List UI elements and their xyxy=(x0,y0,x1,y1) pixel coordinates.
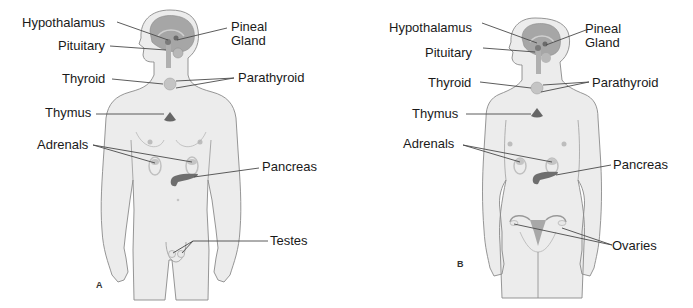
label-pancreas-b: Pancreas xyxy=(613,158,668,172)
label-parathyroid-b: Parathyroid xyxy=(592,76,658,90)
label-hypothalamus-b: Hypothalamus xyxy=(389,21,472,35)
label-adrenals-b: Adrenals xyxy=(403,137,454,151)
panel-letter-a: A xyxy=(96,280,103,290)
label-pancreas-a: Pancreas xyxy=(262,160,317,174)
thyroid-organ xyxy=(164,78,176,90)
testis-left xyxy=(169,251,176,258)
label-pineal-a-line2: Gland xyxy=(231,34,266,48)
label-thymus-a: Thymus xyxy=(45,106,91,120)
label-pineal-b-line1: Pineal xyxy=(585,22,621,36)
label-thymus-b: Thymus xyxy=(412,107,458,121)
label-hypothalamus-a: Hypothalamus xyxy=(22,16,105,30)
label-parathyroid-a: Parathyroid xyxy=(238,71,304,85)
male-figure xyxy=(93,10,268,300)
label-testes-a: Testes xyxy=(270,234,308,248)
female-figure xyxy=(463,18,612,298)
label-thyroid-a: Thyroid xyxy=(62,72,105,86)
label-thyroid-b: Thyroid xyxy=(428,76,471,90)
label-adrenals-a: Adrenals xyxy=(37,138,88,152)
label-pituitary-a: Pituitary xyxy=(58,39,105,53)
label-pineal-b-line2: Gland xyxy=(585,36,620,50)
label-pineal-a-line1: Pineal xyxy=(231,20,267,34)
label-ovaries-b: Ovaries xyxy=(612,239,657,253)
panel-letter-b: B xyxy=(457,259,464,269)
label-pituitary-b: Pituitary xyxy=(425,46,472,60)
